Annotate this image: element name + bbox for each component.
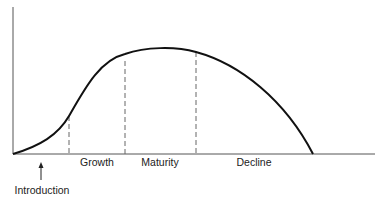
stage-label-decline: Decline [236,156,271,168]
stage-label-growth: Growth [80,156,114,168]
phase-dividers [69,52,196,154]
sales-curve [13,48,313,154]
stage-label-maturity: Maturity [141,156,178,168]
stage-label-introduction: Introduction [15,184,70,196]
product-life-cycle-diagram [0,0,383,204]
introduction-arrow [39,162,44,180]
